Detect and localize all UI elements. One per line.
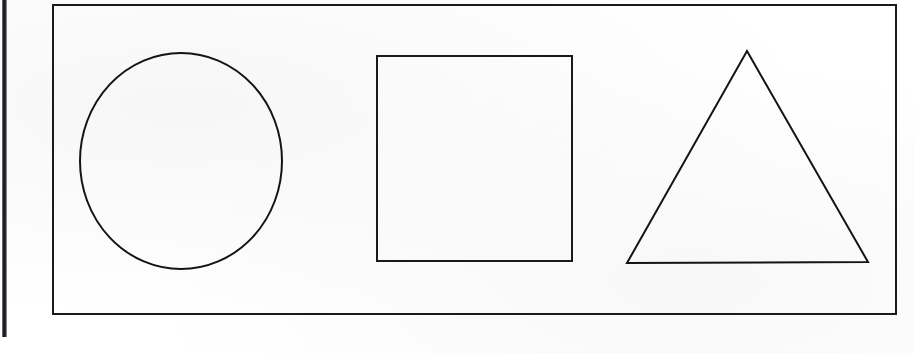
triangle-outline bbox=[627, 51, 868, 263]
triangle-shape bbox=[0, 0, 914, 353]
page-canvas bbox=[0, 0, 914, 353]
